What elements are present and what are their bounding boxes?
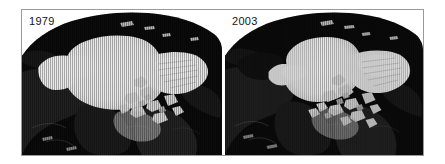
arctic-globe-2003 — [225, 10, 423, 155]
year-label-1979: 1979 — [29, 15, 55, 27]
figure-root: 1979 — [0, 0, 445, 164]
arctic-globe-svg-1979 — [22, 10, 222, 155]
figure-frame: 1979 — [21, 9, 424, 156]
image-panel-2003: 2003 — [225, 10, 423, 155]
globe-clip-group-left — [22, 10, 222, 155]
year-label-2003: 2003 — [232, 15, 258, 27]
arctic-globe-1979 — [22, 10, 222, 155]
globe-clip-group-right — [225, 10, 423, 155]
image-panel-1979: 1979 — [22, 10, 222, 155]
arctic-globe-svg-2003 — [225, 10, 423, 155]
